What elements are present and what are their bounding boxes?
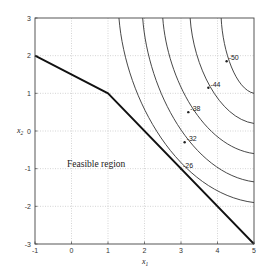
- y-axis-label: x2: [16, 126, 24, 136]
- x-tick-label: 5: [252, 247, 256, 254]
- contour-label: -26: [183, 162, 193, 169]
- contour-marker: [207, 86, 209, 88]
- x-tick-label: 0: [70, 247, 74, 254]
- feasible-region-label: Feasible region: [67, 159, 126, 169]
- contour-label: -50: [229, 54, 239, 61]
- x-tick-label: 3: [179, 247, 183, 254]
- contour-line: [163, 18, 254, 154]
- x-tick-label: 2: [143, 247, 147, 254]
- y-tick-label: -1: [25, 165, 31, 172]
- y-tick-label: 2: [27, 52, 31, 59]
- x-tick-label: 1: [106, 247, 110, 254]
- contour-label: -44: [210, 81, 220, 88]
- contour-line: [143, 18, 254, 182]
- y-tick-label: 3: [27, 15, 31, 22]
- contour-label: -38: [190, 105, 200, 112]
- contour-marker: [180, 167, 182, 169]
- axis-ticks: -1012345-3-2-10123: [25, 15, 256, 255]
- x-axis-label: x1: [141, 257, 149, 267]
- contour-marker: [225, 60, 227, 62]
- contour-marker: [187, 111, 189, 113]
- contour-chart: -1012345-3-2-10123 -26-32-38-44-50 Feasi…: [0, 0, 267, 278]
- y-tick-label: -3: [25, 241, 31, 248]
- y-tick-label: -2: [25, 203, 31, 210]
- x-tick-label: -1: [32, 247, 38, 254]
- y-tick-label: 1: [27, 90, 31, 97]
- x-tick-label: 4: [216, 247, 220, 254]
- contour-marker: [183, 141, 185, 143]
- contour-label: -32: [187, 135, 197, 142]
- y-tick-label: 0: [27, 128, 31, 135]
